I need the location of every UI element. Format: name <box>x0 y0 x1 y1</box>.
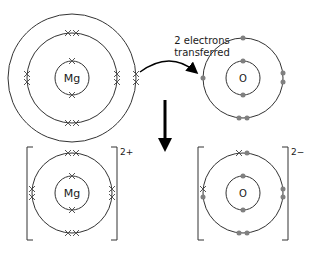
o-ion: 2− O <box>198 147 304 240</box>
mg-ion-symbol: Mg <box>64 187 80 200</box>
mg-atom: Mg <box>8 14 139 142</box>
transfer-label-line2: transferred <box>174 47 230 58</box>
o-atom-symbol: O <box>239 73 247 84</box>
transfer-arrow <box>140 61 196 72</box>
mg-atom-symbol: Mg <box>64 72 80 85</box>
reaction-arrowhead <box>158 138 172 152</box>
o-ion-charge: 2− <box>291 147 304 157</box>
o-ion-symbol: O <box>239 188 247 199</box>
ionic-bonding-diagram: Mg 2 electrons transferred O 2+ Mg <box>0 0 316 260</box>
mg-ion: 2+ Mg <box>27 147 133 240</box>
mg-ion-charge: 2+ <box>120 147 133 157</box>
